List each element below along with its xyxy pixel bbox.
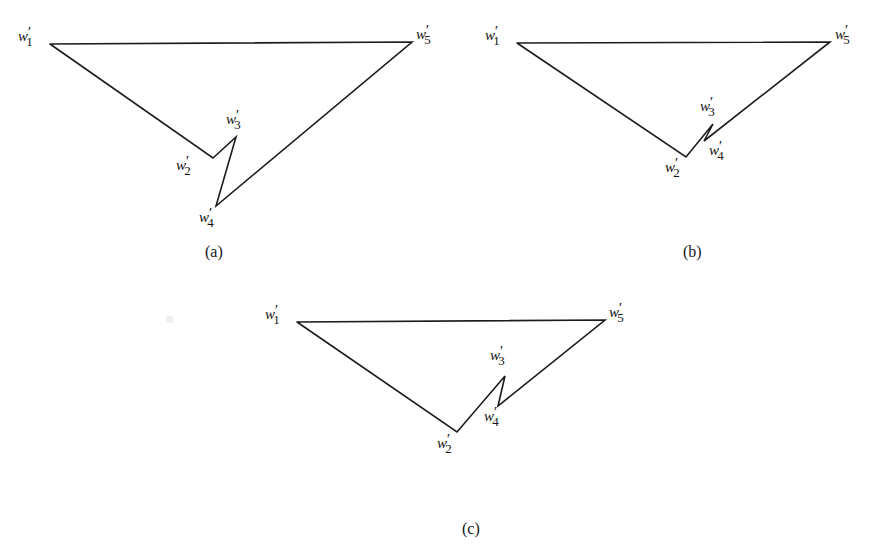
panel-c-vertex-label-w1: w′1: [265, 307, 285, 322]
label-subscript: 1: [273, 312, 280, 327]
label-subscript: 2: [445, 441, 452, 456]
panel-b-vertex-label-w5: w′5: [835, 27, 855, 42]
panel-b-vertex-label-w4: w′4: [709, 143, 729, 158]
scan-artifact-speck: [166, 316, 173, 323]
label-subscript: 5: [424, 32, 431, 47]
panel-c-vertex-label-w4: w′4: [484, 409, 504, 424]
panel-b-vertex-label-w2: w′2: [665, 160, 685, 175]
panel-c-polyline: [297, 320, 605, 432]
panel-a-vertex-label-w4: w′4: [199, 210, 219, 225]
label-subscript: 5: [617, 310, 624, 325]
label-subscript: 2: [184, 163, 191, 178]
label-subscript: 3: [708, 104, 715, 119]
label-subscript: 1: [26, 34, 33, 49]
panel-a-vertex-label-w5: w′5: [416, 27, 436, 42]
panel-b-vertex-label-w3: w′3: [700, 99, 720, 114]
label-subscript: 4: [207, 215, 214, 230]
panel-c-vertex-label-w2: w′2: [437, 436, 457, 451]
panel-b-caption: (b): [683, 243, 702, 261]
panel-c-caption: (c): [462, 520, 480, 538]
label-subscript: 3: [498, 353, 505, 368]
panel-b-polyline: [517, 42, 830, 157]
panel-a-vertex-label-w3: w′3: [226, 112, 246, 127]
label-subscript: 3: [234, 117, 241, 132]
panel-a-vertex-label-w2: w′2: [176, 158, 196, 173]
panel-c-vertex-label-w5: w′5: [609, 305, 629, 320]
panel-a-caption: (a): [205, 243, 223, 261]
label-subscript: 5: [843, 32, 850, 47]
panel-a-vertex-label-w1: w′1: [18, 29, 38, 44]
label-subscript: 1: [493, 33, 500, 48]
panel-c-vertex-label-w3: w′3: [490, 348, 510, 363]
panel-b-vertex-label-w1: w′1: [485, 28, 505, 43]
figure-root: w′1 w′2 w′3 w′4 w′5 (a) w′1 w′2 w′3 w′4 …: [0, 0, 885, 558]
label-subscript: 4: [492, 414, 499, 429]
label-subscript: 4: [717, 148, 724, 163]
figure-line-art: [0, 0, 885, 558]
label-subscript: 2: [673, 165, 680, 180]
